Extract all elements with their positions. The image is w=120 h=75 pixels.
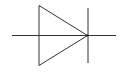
junction-dot [87,35,89,37]
diode-symbol [0,0,120,75]
